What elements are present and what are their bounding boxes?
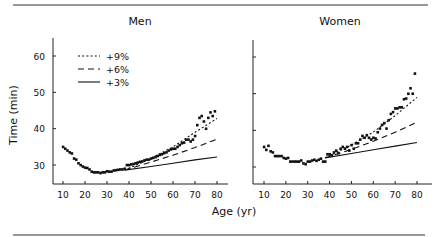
data-point [331, 154, 334, 157]
data-point [287, 157, 290, 160]
data-point [376, 131, 379, 134]
data-point [405, 97, 408, 100]
x-tick-label: 80 [211, 190, 223, 200]
x-tick-label: 70 [389, 190, 401, 200]
data-point [207, 117, 210, 120]
chart-figure: Men102030405060708030405060+9%+6%+3% Wom… [0, 0, 436, 237]
legend-label: +6% [106, 64, 129, 75]
data-point [320, 157, 323, 160]
data-point [385, 127, 388, 130]
data-point [267, 145, 270, 148]
data-point [414, 72, 417, 75]
x-tick-label: 10 [57, 190, 69, 200]
x-tick-label: 60 [167, 190, 179, 200]
data-point [350, 144, 353, 147]
y-axis-label: Time (min) [7, 85, 20, 146]
model-curve [125, 139, 217, 170]
data-point [196, 124, 199, 127]
panel-title: Women [319, 15, 360, 28]
data-point [387, 119, 390, 122]
data-point [209, 111, 212, 114]
y-tick-label: 30 [34, 161, 46, 171]
panel-title: Men [128, 15, 151, 28]
data-point [192, 138, 195, 141]
x-axis-label: Age (yr) [212, 205, 256, 218]
legend-label: +3% [106, 77, 129, 88]
x-tick-label: 60 [368, 190, 380, 200]
x-tick-label: 30 [302, 190, 314, 200]
data-point [300, 159, 303, 162]
data-point [407, 92, 410, 95]
data-point [203, 120, 206, 123]
data-point [194, 135, 197, 138]
men-panel: Men102030405060708030405060+9%+6%+3% [34, 15, 228, 200]
women-panel: Women1020304050607080 [253, 15, 432, 200]
data-point [183, 141, 186, 144]
x-tick-label: 40 [123, 190, 135, 200]
data-point [346, 146, 349, 149]
x-tick-label: 20 [79, 190, 91, 200]
data-point [401, 106, 404, 109]
data-point [363, 136, 366, 139]
data-point [272, 151, 275, 154]
data-point [366, 134, 369, 137]
legend-label: +9% [106, 51, 129, 62]
model-curve [325, 142, 417, 157]
data-point [214, 110, 217, 113]
y-tick-label: 40 [34, 124, 46, 134]
y-tick-label: 60 [34, 52, 46, 62]
data-point [75, 158, 78, 161]
y-tick-label: 50 [34, 88, 46, 98]
data-point [205, 127, 208, 130]
data-point [337, 152, 340, 155]
data-point [123, 167, 126, 170]
x-tick-label: 20 [280, 190, 292, 200]
data-point [352, 147, 355, 150]
data-point [304, 163, 307, 166]
data-point [379, 127, 382, 130]
data-point [359, 138, 362, 141]
data-point [383, 122, 386, 125]
data-point [392, 111, 395, 114]
data-point [335, 149, 338, 152]
data-point [211, 115, 214, 118]
x-tick-label: 70 [189, 190, 201, 200]
x-tick-label: 30 [101, 190, 113, 200]
model-curve [325, 97, 417, 157]
data-point [411, 92, 414, 95]
data-point [265, 149, 268, 152]
x-tick-label: 40 [324, 190, 336, 200]
data-point [357, 142, 360, 145]
data-point [324, 160, 327, 163]
data-point [71, 152, 74, 155]
data-point [409, 87, 412, 90]
x-tick-label: 50 [145, 190, 157, 200]
x-tick-label: 80 [411, 190, 423, 200]
data-point [348, 149, 351, 152]
data-point [200, 115, 203, 118]
data-point [374, 137, 377, 140]
x-tick-label: 10 [258, 190, 270, 200]
x-tick-label: 50 [346, 190, 358, 200]
data-point [263, 146, 266, 149]
